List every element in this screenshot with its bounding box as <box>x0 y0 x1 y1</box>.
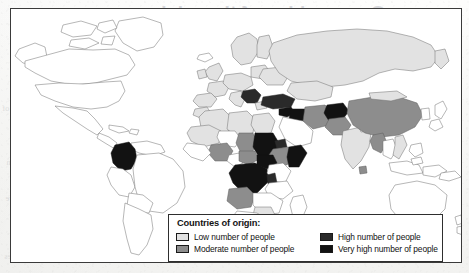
scanned-page: Geographies of the crisis and so the num… <box>0 0 469 273</box>
legend-items: Low number of people High number of peop… <box>176 231 436 255</box>
legend-swatch-high-icon <box>320 233 333 241</box>
legend-title: Countries of origin: <box>177 218 436 229</box>
legend-swatch-low-icon <box>176 233 189 241</box>
legend-label-moderate: Moderate number of people <box>194 244 294 254</box>
legend-swatch-moderate-icon <box>176 245 189 253</box>
legend-item-low: Low number of people <box>176 231 318 243</box>
legend-item-very-high: Very high number of people <box>320 243 438 255</box>
map-legend: Countries of origin: Low number of peopl… <box>168 214 443 262</box>
legend-label-high: High number of people <box>338 232 421 242</box>
legend-label-very-high: Very high number of people <box>338 244 438 254</box>
legend-swatch-very-high-icon <box>320 245 333 253</box>
legend-item-high: High number of people <box>320 231 438 243</box>
legend-label-low: Low number of people <box>194 232 275 242</box>
legend-item-moderate: Moderate number of people <box>176 243 318 255</box>
country-sri-lanka <box>359 166 367 174</box>
